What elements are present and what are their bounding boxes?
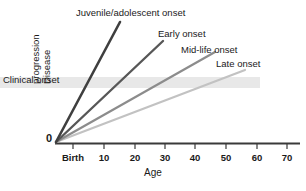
x-tick-label-30: 30 [160,152,171,163]
x-tick-label-70: 70 [282,152,293,163]
clinical-onset-label: Clinical onset [3,75,60,85]
x-tick-label-birth: Birth [62,152,84,163]
x-tick-label-20: 20 [130,152,141,163]
disease-progression-chart: Disease progression Clinical onset 0 Bir… [0,0,306,191]
x-tick-label-50: 50 [221,152,232,163]
series-label-midlife: Mid-life onset [181,44,238,55]
series-label-juvenile: Juvenile/adolescent onset [76,7,185,18]
series-label-early: Early onset [158,28,206,39]
x-tick-label-60: 60 [252,152,263,163]
series-label-late: Late onset [216,58,260,69]
x-tick-label-10: 10 [99,152,110,163]
x-tick-label-40: 40 [190,152,201,163]
x-axis-title: Age [0,167,306,178]
origin-label: 0 [46,133,52,145]
